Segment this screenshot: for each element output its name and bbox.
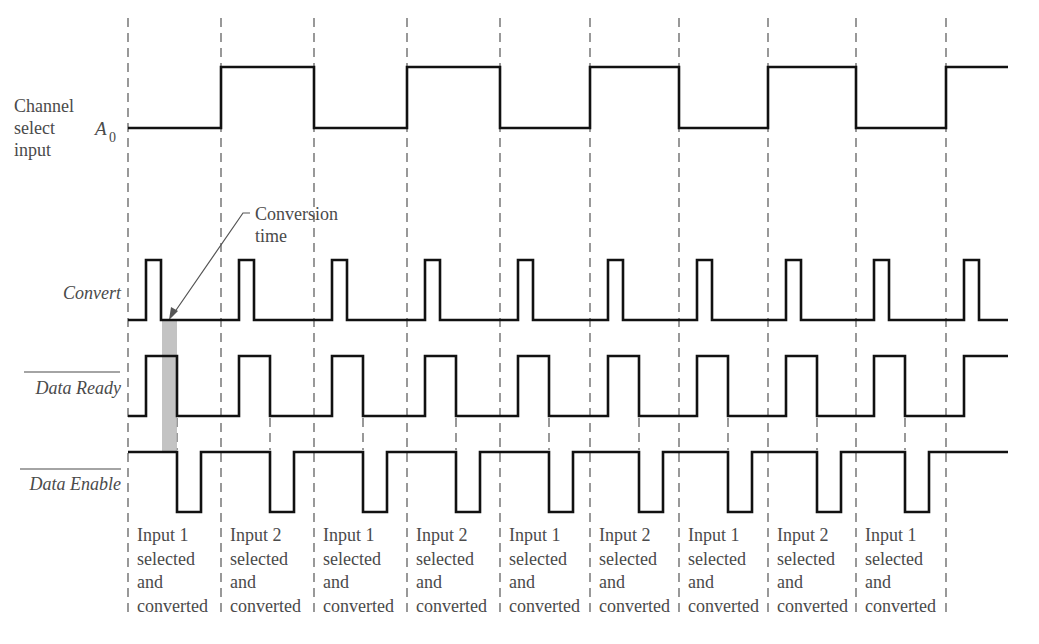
a0-symbol-subscript: 0 bbox=[109, 130, 116, 145]
slot-label-line: and bbox=[416, 572, 442, 592]
slot-label-line: Input 2 bbox=[416, 525, 468, 545]
slot-label-line: and bbox=[688, 572, 714, 592]
data-enable-waveform bbox=[128, 452, 1008, 512]
slot-label-line: converted bbox=[777, 596, 848, 616]
slot-label-line: Input 2 bbox=[230, 525, 282, 545]
data-ready-waveform bbox=[128, 356, 1008, 416]
slot-label-line: selected bbox=[688, 549, 746, 569]
convert-waveform bbox=[128, 260, 1008, 320]
annotation-line2: time bbox=[255, 226, 287, 246]
slot-label-line: converted bbox=[688, 596, 759, 616]
slot-label-line: selected bbox=[865, 549, 923, 569]
slot-label-line: and bbox=[230, 572, 256, 592]
slot-label-line: converted bbox=[416, 596, 487, 616]
slot-label-line: and bbox=[599, 572, 625, 592]
slot-label-line: converted bbox=[137, 596, 208, 616]
convert-label: Convert bbox=[63, 283, 122, 303]
slot-label-line: selected bbox=[137, 549, 195, 569]
a0-waveform bbox=[128, 67, 1008, 128]
slot-label-line: Input 1 bbox=[865, 525, 917, 545]
slot-label-line: Input 1 bbox=[323, 525, 375, 545]
slot-label-line: and bbox=[137, 572, 163, 592]
slot-label-line: converted bbox=[230, 596, 301, 616]
slot-label-line: converted bbox=[323, 596, 394, 616]
slot-label-line: converted bbox=[509, 596, 580, 616]
slot-label-line: selected bbox=[416, 549, 474, 569]
a0-label-line2: select bbox=[14, 118, 55, 138]
slot-label-line: converted bbox=[865, 596, 936, 616]
conversion-time-bar bbox=[162, 320, 177, 452]
slot-label-line: selected bbox=[509, 549, 567, 569]
a0-label-line3: input bbox=[14, 140, 51, 160]
slot-label-line: selected bbox=[777, 549, 835, 569]
slot-label-line: and bbox=[509, 572, 535, 592]
a0-symbol: A bbox=[93, 118, 107, 139]
slot-label-line: selected bbox=[599, 549, 657, 569]
slot-label-line: Input 2 bbox=[599, 525, 651, 545]
slot-labels: Input 1selectedandconvertedInput 2select… bbox=[137, 525, 936, 616]
slot-label-line: Input 1 bbox=[688, 525, 740, 545]
data-ready-fall-ticks bbox=[177, 418, 905, 450]
slot-label-line: converted bbox=[599, 596, 670, 616]
timing-diagram: Channel select input A 0 Convert Data Re… bbox=[0, 0, 1039, 644]
a0-label-group: Channel select input A 0 bbox=[14, 96, 116, 160]
slot-label-line: Input 1 bbox=[509, 525, 561, 545]
slot-label-line: selected bbox=[323, 549, 381, 569]
a0-label-line1: Channel bbox=[14, 96, 74, 116]
slot-label-line: selected bbox=[230, 549, 288, 569]
slot-label-line: and bbox=[865, 572, 891, 592]
slot-label-line: and bbox=[323, 572, 349, 592]
data-ready-label: Data Ready bbox=[35, 378, 121, 398]
annotation-line1: Conversion bbox=[255, 204, 338, 224]
slot-label-line: Input 2 bbox=[777, 525, 829, 545]
slot-label-line: Input 1 bbox=[137, 525, 189, 545]
data-enable-label: Data Enable bbox=[29, 474, 122, 494]
slot-label-line: and bbox=[777, 572, 803, 592]
